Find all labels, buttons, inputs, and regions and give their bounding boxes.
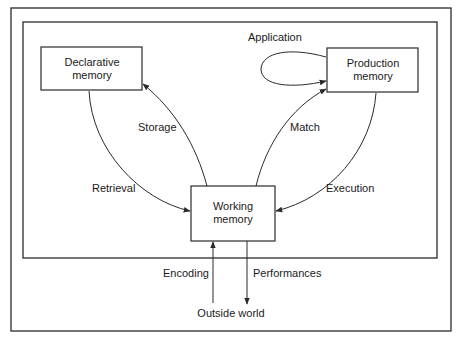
application-label: Application	[248, 31, 302, 43]
performances-label: Performances	[253, 267, 322, 279]
outside-world-label: Outside world	[197, 307, 264, 319]
match-label: Match	[290, 121, 320, 133]
declarative-memory-label-1: Declarative	[64, 56, 119, 68]
storage-arrow	[143, 84, 207, 186]
memory-architecture-diagram: Declarative memory Production memory Wor…	[0, 0, 462, 343]
production-memory-node: Production memory	[327, 48, 418, 92]
working-memory-label-1: Working	[213, 200, 253, 212]
production-memory-label-1: Production	[347, 57, 400, 69]
production-memory-label-2: memory	[353, 70, 393, 82]
declarative-memory-label-2: memory	[72, 69, 112, 81]
execution-label: Execution	[326, 182, 374, 194]
working-memory-node: Working memory	[191, 186, 275, 241]
declarative-memory-node: Declarative memory	[41, 47, 142, 90]
working-memory-label-2: memory	[213, 213, 253, 225]
match-arrow	[256, 89, 326, 186]
encoding-label: Encoding	[163, 267, 209, 279]
application-loop-arrow	[261, 52, 326, 85]
retrieval-label: Retrieval	[92, 182, 135, 194]
storage-label: Storage	[138, 121, 177, 133]
